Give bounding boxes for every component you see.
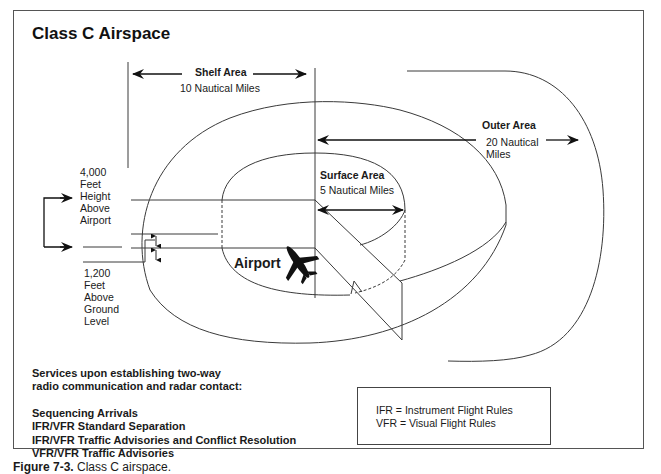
figure-number: Figure 7-3. (13, 460, 74, 474)
lower-altitude-text-3: Level (84, 315, 119, 327)
figure-caption: Figure 7-3. Class C airspace. (13, 460, 171, 474)
lower-altitude-text-2: Ground (84, 303, 119, 315)
lower-altitude-unit: Feet (84, 279, 119, 291)
surface-ellipse-right (360, 210, 405, 245)
legend-ifr: IFR = Instrument Flight Rules (376, 404, 513, 417)
services-intro-line2: radio communication and radar contact: (32, 380, 296, 393)
surface-dashed-bottom (355, 260, 405, 293)
shelf-area-label: Shelf Area (195, 66, 247, 78)
outer-area-distance-line2: Miles (486, 148, 511, 160)
surface-ellipse-top (222, 153, 405, 210)
lower-altitude-text-1: Above (84, 291, 119, 303)
outer-area-boundary (407, 71, 604, 361)
upper-altitude-text-3: Airport (80, 214, 111, 226)
services-list: Services upon establishing two-way radio… (32, 367, 296, 460)
outer-area-label: Outer Area (482, 119, 536, 131)
ground-reference-line-2 (83, 240, 155, 262)
upper-altitude-text-2: Above (80, 202, 111, 214)
outer-area-distance-line1: 20 Nautical (486, 136, 539, 148)
shelf-ellipse-bottom (150, 205, 506, 343)
surface-area-label: Surface Area (320, 169, 384, 181)
figure-caption-text: Class C airspace. (77, 460, 171, 474)
lower-altitude-value: 1,200 (84, 267, 119, 279)
upper-altitude-text-1: Height (80, 190, 111, 202)
shelf-ellipse-front (400, 222, 506, 281)
service-item: IFR/VFR Standard Separation (32, 420, 296, 433)
upper-altitude-value: 4,000 (80, 166, 111, 178)
airport-label: Airport (234, 255, 281, 272)
legend-vfr: VFR = Visual Flight Rules (376, 417, 513, 430)
lower-altitude-label: 1,200 Feet Above Ground Level (84, 267, 119, 327)
upper-altitude-unit: Feet (80, 178, 111, 190)
diagram-title: Class C Airspace (32, 24, 170, 44)
altitude-bracket-arrow (44, 198, 70, 247)
cutaway-line-upper (315, 200, 402, 283)
services-intro-line1: Services upon establishing two-way (32, 367, 296, 380)
cutaway-line-lower (315, 248, 402, 340)
surface-area-distance: 5 Nautical Miles (320, 184, 394, 196)
legend-text: IFR = Instrument Flight Rules VFR = Visu… (376, 404, 513, 430)
service-item: Sequencing Arrivals (32, 407, 296, 420)
shelf-area-distance: 10 Nautical Miles (180, 82, 260, 94)
service-item: VFR/VFR Traffic Advisories (32, 447, 296, 460)
upper-altitude-label: 4,000 Feet Height Above Airport (80, 166, 111, 226)
service-item: IFR/VFR Traffic Advisories and Conflict … (32, 434, 296, 447)
